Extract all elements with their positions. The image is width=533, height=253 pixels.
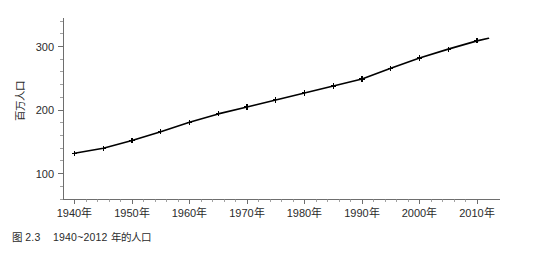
- data-point-marker: [446, 47, 451, 52]
- y-tick-label: 200: [36, 104, 54, 116]
- data-point-marker: [302, 90, 307, 95]
- x-tick-label: 1960年: [172, 206, 207, 219]
- data-point-marker: [273, 97, 278, 102]
- data-point-marker: [101, 146, 106, 151]
- data-point-marker: [216, 111, 221, 116]
- figure-caption: 图 2.3 1940~2012 年的人口: [12, 229, 152, 244]
- data-point-marker: [129, 138, 134, 143]
- x-tick-label: 1980年: [287, 206, 322, 219]
- y-tick-label: 300: [36, 41, 54, 53]
- data-point-marker: [331, 83, 336, 88]
- data-point-marker: [187, 120, 192, 125]
- y-axis: 100200300: [36, 18, 63, 199]
- data-point-marker: [244, 104, 249, 109]
- x-tick-label: 1940年: [57, 206, 92, 219]
- data-point-marker: [417, 55, 422, 60]
- x-tick-label: 1970年: [229, 206, 264, 219]
- data-point-marker: [474, 38, 479, 43]
- population-line-chart: 100200300 1940年1950年1960年1970年1980年1990年…: [0, 0, 533, 253]
- figure-container: 100200300 1940年1950年1960年1970年1980年1990年…: [0, 0, 533, 253]
- population-line: [75, 38, 489, 153]
- x-tick-label: 2000年: [402, 206, 437, 219]
- data-point-marker: [158, 129, 163, 134]
- x-axis: 1940年1950年1960年1970年1980年1990年2000年2010年: [57, 199, 500, 219]
- y-tick-label: 100: [36, 168, 54, 180]
- data-point-marker: [359, 76, 364, 81]
- data-point-marker: [72, 151, 77, 156]
- data-point-marker: [388, 66, 393, 71]
- data-series-population: [72, 38, 489, 156]
- x-tick-label: 1990年: [344, 206, 379, 219]
- x-tick-label: 2010年: [459, 206, 494, 219]
- x-tick-label: 1950年: [114, 206, 149, 219]
- y-axis-title: 百万人口: [14, 81, 26, 121]
